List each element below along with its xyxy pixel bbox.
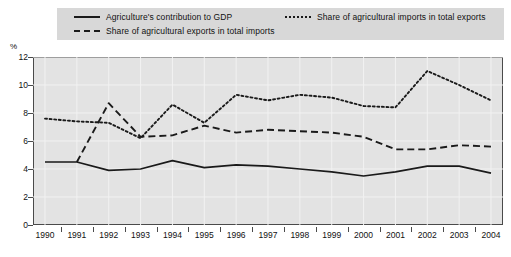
legend-item-agriculture-gdp: Agriculture's contribution to GDP <box>74 12 232 22</box>
x-axis-tick <box>284 227 285 232</box>
x-axis-tick <box>157 227 158 232</box>
x-axis-tick-label: 1991 <box>67 230 86 240</box>
solid-line-icon <box>74 12 100 22</box>
x-axis-labels: 1990199119921993199419951996199719981999… <box>33 227 503 243</box>
legend-item-agri-exports: Share of agricultural exports in total i… <box>74 26 275 36</box>
dotted-line-icon <box>285 12 311 22</box>
y-axis-tick <box>28 141 33 142</box>
x-axis-tick-label: 1997 <box>259 230 278 240</box>
x-axis-tick-label: 1995 <box>195 230 214 240</box>
x-axis-tick <box>316 227 317 232</box>
y-axis-tick-label: 10 <box>19 80 28 90</box>
x-axis-tick <box>220 227 221 232</box>
x-axis-tick-label: 1994 <box>163 230 182 240</box>
legend-item-agri-imports: Share of agricultural imports in total e… <box>285 12 486 22</box>
x-axis-tick <box>93 227 94 232</box>
x-axis-tick-label: 2004 <box>482 230 501 240</box>
x-axis-tick-label: 1993 <box>131 230 150 240</box>
chart-figure: Agriculture's contribution to GDP Share … <box>0 0 511 257</box>
plot-svg <box>33 57 503 225</box>
x-axis-tick <box>380 227 381 232</box>
y-axis-unit-label: % <box>10 42 17 51</box>
x-axis-tick-label: 2003 <box>450 230 469 240</box>
y-axis-tick <box>28 169 33 170</box>
x-axis-tick-label: 2002 <box>418 230 437 240</box>
x-axis-tick-label: 2000 <box>354 230 373 240</box>
y-axis-tick <box>28 113 33 114</box>
chart-legend: Agriculture's contribution to GDP Share … <box>57 8 504 40</box>
legend-item-label: Share of agricultural imports in total e… <box>317 12 486 22</box>
x-axis-tick <box>188 227 189 232</box>
x-axis-tick-label: 1999 <box>322 230 341 240</box>
dashed-line-icon <box>74 26 100 36</box>
x-axis-tick <box>348 227 349 232</box>
y-axis-labels: 024681012 <box>0 57 28 225</box>
legend-item-label: Share of agricultural exports in total i… <box>106 26 275 36</box>
x-axis-tick <box>443 227 444 232</box>
plot-area <box>33 57 503 225</box>
series-line-1 <box>77 103 491 162</box>
x-axis-tick-label: 1990 <box>36 230 55 240</box>
x-axis-tick <box>475 227 476 232</box>
gridlines <box>33 57 503 225</box>
x-axis-tick-label: 2001 <box>386 230 405 240</box>
x-axis-tick-label: 1998 <box>290 230 309 240</box>
x-axis-tick <box>252 227 253 232</box>
y-axis-tick <box>28 57 33 58</box>
x-axis-tick <box>411 227 412 232</box>
x-axis-tick-label: 1992 <box>99 230 118 240</box>
y-axis-tick <box>28 225 33 226</box>
x-axis-tick-label: 1996 <box>227 230 246 240</box>
y-axis-tick-label: 12 <box>19 52 28 62</box>
x-axis-tick <box>61 227 62 232</box>
y-axis-tick <box>28 197 33 198</box>
legend-item-label: Agriculture's contribution to GDP <box>106 12 232 22</box>
y-axis-tick <box>28 85 33 86</box>
x-axis-tick <box>125 227 126 232</box>
